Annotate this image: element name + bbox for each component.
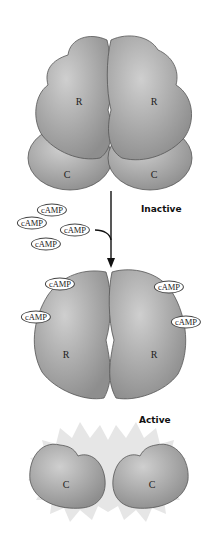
free-camp-4: cAMP — [31, 238, 61, 251]
free-camp-1: cAMP — [37, 204, 67, 217]
inactive-state-label: Inactive — [141, 204, 182, 214]
label-catalytic-left: C — [64, 169, 71, 180]
bound-camp-2: cAMP — [21, 311, 51, 324]
free-catalytic-left: C — [63, 479, 70, 490]
label-regulatory-left: R — [76, 96, 83, 107]
bound-camp-4: cAMP — [171, 316, 201, 329]
label-regulatory-right: R — [151, 96, 158, 107]
active-label-regulatory-left: R — [63, 349, 70, 360]
label-catalytic-right: C — [151, 169, 158, 180]
inactive-regulatory-subunits — [36, 36, 192, 160]
free-camp-2: cAMP — [17, 217, 47, 230]
free-camp-3: cAMP — [60, 224, 90, 237]
free-catalytic-right: C — [149, 479, 156, 490]
bound-camp-1: cAMP — [45, 278, 75, 291]
active-state-label: Active — [139, 415, 171, 425]
active-label-regulatory-right: R — [151, 349, 158, 360]
bound-camp-3: cAMP — [154, 281, 184, 294]
diagram-canvas — [0, 0, 216, 536]
activation-arrow — [95, 191, 115, 268]
